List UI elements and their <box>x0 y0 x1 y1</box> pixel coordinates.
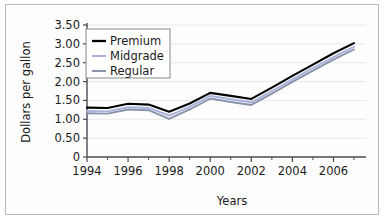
legend-label-premium: Premium <box>110 34 161 48</box>
x-tick-label: 2000 <box>196 164 225 178</box>
x-axis-tick-labels: 1994199619982000200220042006 <box>72 164 348 178</box>
y-axis-title: Dollars per gallon <box>19 41 33 143</box>
y-tick-label: 0 <box>73 150 80 164</box>
y-tick-label: 2.00 <box>54 75 80 89</box>
y-axis-tick-labels: 00.501.001.502.002.503.003.50 <box>54 18 80 164</box>
line-chart: 00.501.001.502.002.503.003.50 1994199619… <box>0 0 384 222</box>
x-axis-title: Years <box>216 194 247 208</box>
legend-label-midgrade: Midgrade <box>110 49 164 63</box>
x-tick-label: 1994 <box>72 164 101 178</box>
x-tick-label: 2004 <box>278 164 307 178</box>
legend-label-regular: Regular <box>110 64 154 78</box>
chart-figure: 00.501.001.502.002.503.003.50 1994199619… <box>0 0 384 222</box>
x-tick-label: 2006 <box>319 164 348 178</box>
y-tick-label: 2.50 <box>54 56 80 70</box>
y-tick-label: 1.00 <box>54 112 80 126</box>
y-tick-label: 1.50 <box>54 93 80 107</box>
x-tick-label: 1998 <box>155 164 184 178</box>
y-tick-label: 3.50 <box>54 18 80 32</box>
y-tick-label: 3.00 <box>54 37 80 51</box>
x-tick-label: 1996 <box>113 164 142 178</box>
chart-legend: PremiumMidgradeRegular <box>86 29 170 78</box>
x-tick-label: 2002 <box>237 164 266 178</box>
y-tick-label: 0.50 <box>54 131 80 145</box>
